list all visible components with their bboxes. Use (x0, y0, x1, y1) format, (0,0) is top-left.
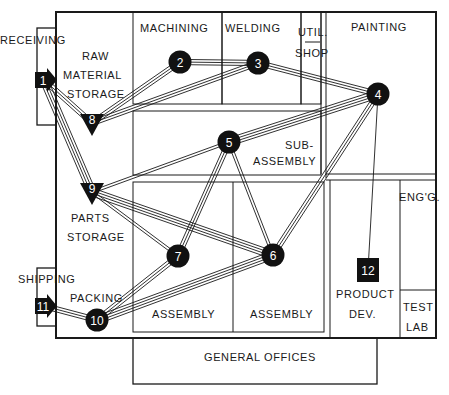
node-label: 7 (175, 250, 182, 264)
flow-line-5-7 (180, 143, 231, 257)
label-sub: SUB- (285, 139, 314, 151)
node-label: 9 (89, 182, 96, 196)
label-product: PRODUCT (336, 288, 395, 300)
label-packing: PACKING (70, 292, 123, 304)
label-shop: SHOP (295, 47, 329, 59)
flow-line-4-12 (368, 94, 378, 270)
label-shipping: SHIPPING (18, 273, 75, 285)
label-engg: ENG'G. (399, 191, 440, 203)
node-10: 10 (86, 309, 109, 332)
label-raw: RAW (82, 50, 109, 62)
node-8: 8 (80, 113, 104, 136)
label-sub-assembly: ASSEMBLY (253, 155, 316, 167)
node-5: 5 (218, 131, 241, 154)
label-util: UTIL. (298, 26, 328, 38)
label-lab: LAB (406, 321, 429, 333)
facility-layout-diagram: 123456789101112 RECEIVING RAW MATERIAL S… (0, 0, 449, 395)
node-label: 8 (89, 113, 96, 127)
node-label: 4 (375, 88, 382, 102)
node-3: 3 (247, 52, 270, 75)
label-painting: PAINTING (351, 21, 407, 33)
flow-line-3-4 (258, 63, 378, 94)
label-material: MATERIAL (63, 69, 122, 81)
flow-line-4-5 (229, 95, 378, 143)
label-dev: DEV. (349, 308, 376, 320)
node-11: 11 (35, 294, 57, 318)
label-storage-raw: STORAGE (67, 88, 125, 100)
node-label: 11 (37, 300, 50, 314)
flow-line-9-5 (92, 143, 229, 193)
flow-line-2-3 (180, 62, 258, 63)
label-receiving: RECEIVING (0, 34, 66, 46)
label-welding: WELDING (225, 22, 281, 34)
flow-line-3-4 (257, 66, 377, 97)
label-parts: PARTS (71, 212, 110, 224)
label-test: TEST (403, 301, 434, 313)
label-general-offices: GENERAL OFFICES (204, 351, 316, 363)
node-12: 12 (357, 258, 379, 282)
node-6: 6 (262, 244, 285, 267)
node-label: 3 (255, 57, 262, 71)
label-assembly-right: ASSEMBLY (250, 308, 313, 320)
node-label: 2 (177, 56, 184, 70)
node-4: 4 (367, 83, 390, 106)
node-7: 7 (167, 245, 190, 268)
label-assembly-left: ASSEMBLY (152, 308, 215, 320)
flow-line-4-5 (228, 90, 377, 138)
node-label: 10 (90, 314, 104, 328)
node-label: 5 (226, 136, 233, 150)
flow-line-3-4 (259, 60, 379, 91)
label-storage-parts: STORAGE (67, 231, 125, 243)
flow-line-4-6 (271, 93, 376, 254)
flow-line-2-3 (180, 59, 258, 60)
node-label: 6 (270, 249, 277, 263)
node-label: 12 (361, 264, 375, 278)
label-machining: MACHINING (140, 22, 208, 34)
node-2: 2 (169, 51, 192, 74)
flow-line-4-6 (275, 95, 380, 256)
node-label: 1 (40, 74, 47, 88)
